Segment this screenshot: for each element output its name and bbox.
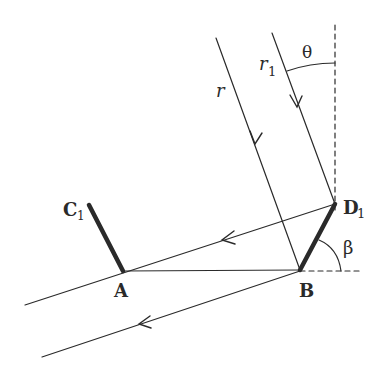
arrow-icon-reflected-lower — [139, 316, 151, 328]
ray-reflection-diagram: θ r r 1 C 1 D 1 A B β — [0, 0, 390, 376]
mirror-AC1 — [89, 205, 123, 271]
reflected-ray-lower — [42, 271, 300, 357]
point-A-label: A — [113, 280, 129, 301]
point-C1-label: C — [63, 199, 77, 220]
theta-angle-arc — [287, 63, 335, 71]
point-B-label: B — [299, 280, 314, 301]
point-C1-subscript: 1 — [77, 209, 85, 223]
theta-label: θ — [302, 42, 312, 62]
ray-r1-subscript: 1 — [268, 64, 276, 79]
segment-AB — [123, 270, 300, 271]
point-D1-subscript: 1 — [357, 206, 365, 221]
arrow-icon-ray-r — [250, 131, 262, 144]
ray-r-label: r — [216, 80, 226, 101]
beta-angle-arc — [319, 240, 341, 271]
beta-label: β — [343, 237, 353, 258]
